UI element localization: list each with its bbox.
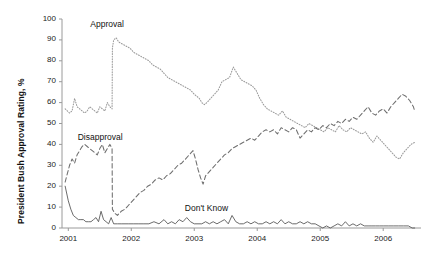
y-tick-label: 70 [26,76,56,85]
y-tick-label: 100 [26,14,56,23]
y-tick-label: 10 [26,202,56,211]
series-line-don-t-know [65,186,415,228]
series-line-disapproval [65,94,415,215]
y-tick-label: 80 [26,55,56,64]
approval-rating-chart: President Bush Approval Rating, % 010203… [0,0,432,263]
y-tick-label: 20 [26,181,56,190]
y-tick-label: 50 [26,118,56,127]
x-tick-label: 2002 [120,234,142,243]
y-tick-label: 60 [26,97,56,106]
y-tick-label: 90 [26,34,56,43]
series-annotation-don-t-know: Don't Know [185,203,228,213]
x-tick-label: 2001 [57,234,79,243]
y-tick-label: 40 [26,139,56,148]
axes [62,19,421,228]
x-tick-label: 2005 [309,234,331,243]
y-tick-label: 30 [26,160,56,169]
x-tick-label: 2004 [246,234,268,243]
x-tick-label: 2006 [372,234,394,243]
plot-area [0,0,432,263]
x-tick-label: 2003 [183,234,205,243]
series-annotation-approval: Approval [90,19,124,29]
series-annotation-disapproval: Disapproval [78,132,123,142]
y-tick-label: 0 [26,223,56,232]
